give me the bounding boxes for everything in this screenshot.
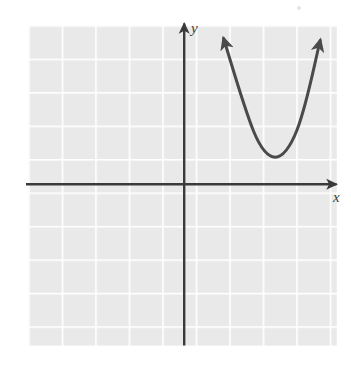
y-axis-label: y xyxy=(191,21,198,36)
coordinate-plane-figure xyxy=(0,0,351,367)
x-axis-label: x xyxy=(333,190,340,205)
scan-artifact-speck xyxy=(297,6,301,10)
